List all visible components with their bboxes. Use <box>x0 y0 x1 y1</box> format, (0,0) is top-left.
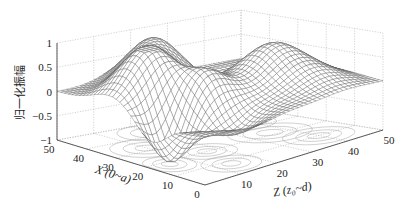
z-axis-label: Z (z₀~d) <box>272 179 313 200</box>
grid-line-amp <box>57 34 383 67</box>
contour-line <box>212 158 251 169</box>
amp-tick-label: 0 <box>47 86 53 98</box>
x-tick-label: 10 <box>162 179 174 191</box>
surface-mesh <box>57 38 383 162</box>
x-tick-label: 20 <box>132 170 144 182</box>
z-axis-line <box>205 130 383 185</box>
amp-tick-label: 0.5 <box>38 61 52 73</box>
z-tick-label: 40 <box>348 145 360 157</box>
z-tick-label: 30 <box>312 156 324 168</box>
x-tick-label: 50 <box>44 143 56 155</box>
contour-line <box>161 162 178 167</box>
amplitude-axis-label: 归一化振幅 <box>13 65 27 120</box>
contour-line <box>201 155 262 172</box>
z-tick-label: 50 <box>384 134 396 146</box>
contour-line <box>222 161 241 166</box>
grid-line-amp <box>57 10 383 43</box>
surface-plot: 10.50−0.5−1010203040501020304050 归一化振幅 X… <box>0 0 410 212</box>
amp-tick-label: −0.5 <box>32 110 52 122</box>
amp-tick-label: 1 <box>47 37 53 49</box>
x-tick-label: 40 <box>73 152 85 164</box>
z-tick-label: 20 <box>277 167 289 179</box>
x-tick-label: 0 <box>194 188 200 200</box>
z-tick-label: 10 <box>241 178 253 190</box>
